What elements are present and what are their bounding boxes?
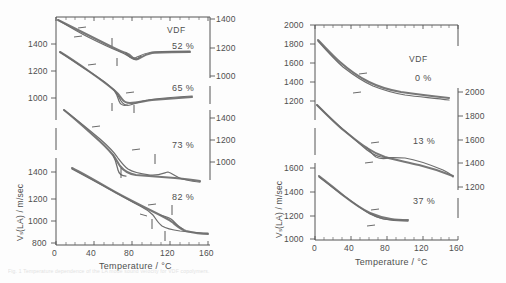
ytick-52-1400: 1400	[216, 15, 236, 24]
curve-group-vdf-65	[60, 52, 192, 105]
ytick-0pct-1600: 1600	[284, 59, 304, 68]
xtick-left-160: 160	[199, 249, 214, 258]
left-axis-65	[51, 17, 56, 120]
xtick-left-0: 0	[52, 249, 57, 258]
xtick-right-0: 0	[312, 244, 317, 253]
ytick-82-1400: 1400	[28, 168, 48, 177]
ytick-0pct-1400: 1400	[284, 78, 304, 87]
xtick-left-80: 80	[124, 249, 134, 258]
ytick-73-1400: 1400	[216, 114, 236, 123]
transition-marker-52	[112, 38, 117, 66]
xaxis-label-right: Temperature / °C	[355, 258, 428, 267]
figure-container: 1400 1200 1000 1400 1200 1000 800 1400 1…	[0, 0, 506, 283]
label-vdf-0: 0 %	[415, 74, 432, 83]
ytick-13pct-2000: 2000	[465, 88, 485, 97]
ytick-13pct-1800: 1800	[465, 112, 485, 121]
ytick-0pct-2000: 2000	[284, 21, 304, 30]
right-axis-13pct	[458, 88, 463, 190]
ytick-52-1000: 1000	[216, 72, 236, 81]
right-axis-73	[210, 110, 215, 180]
figure-caption: Fig. 1 Temperature dependence of the LA …	[8, 268, 498, 274]
xtick-right-80: 80	[380, 244, 390, 253]
legend-title-left: VDF	[167, 26, 186, 35]
label-vdf-52: 52 %	[172, 42, 194, 51]
ytick-37pct-1600: 1600	[284, 164, 304, 173]
label-vdf-82: 82 %	[172, 193, 194, 202]
xtick-right-160: 160	[449, 244, 464, 253]
ytick-52-1200: 1200	[216, 44, 236, 53]
left-bottom-axis	[56, 241, 210, 245]
legend-title-right: VDF	[409, 55, 428, 64]
ytick-13pct-1200: 1200	[465, 183, 485, 192]
label-vdf-65: 65 %	[172, 84, 194, 93]
xtick-right-40: 40	[344, 244, 354, 253]
ytick-65-1400: 1400	[28, 40, 48, 49]
ytick-82-1200: 1200	[28, 195, 48, 204]
yaxis-label-left: Vₛ(LA) / m/sec	[16, 184, 25, 241]
ytick-37pct-1400: 1400	[284, 188, 304, 197]
ytick-0pct-1800: 1800	[284, 40, 304, 49]
ytick-37pct-1200: 1200	[284, 212, 304, 221]
ytick-82-800: 800	[32, 239, 47, 248]
right-axis-0pct	[310, 25, 315, 120]
ytick-73-1000: 1000	[216, 158, 236, 167]
ytick-65-1200: 1200	[28, 67, 48, 76]
right-top-axis	[315, 25, 458, 29]
ytick-13pct-1600: 1600	[465, 136, 485, 145]
ytick-73-1200: 1200	[216, 136, 236, 145]
yaxis-label-right: Vₛ(LA) / m/sec	[275, 181, 284, 238]
right-axis-52	[210, 17, 215, 78]
xtick-left-120: 120	[160, 249, 175, 258]
right-axis-37pct	[310, 163, 315, 240]
right-bottom-axis	[315, 236, 458, 240]
ytick-82-1000: 1000	[28, 217, 48, 226]
ytick-13pct-1400: 1400	[465, 159, 485, 168]
ytick-37pct-1000: 1000	[284, 235, 304, 244]
transition-marker-82	[152, 205, 172, 241]
ytick-0pct-1200: 1200	[284, 97, 304, 106]
label-vdf-73: 73 %	[172, 141, 194, 150]
label-vdf-37: 37 %	[413, 197, 435, 206]
left-top-axis	[56, 17, 210, 21]
curve-group-vdf-0	[318, 40, 449, 100]
xtick-left-40: 40	[86, 249, 96, 258]
label-vdf-13: 13 %	[413, 137, 435, 146]
panel-left: 1400 1200 1000 1400 1200 1000 800 1400 1…	[0, 0, 253, 283]
left-axis-82	[51, 158, 56, 245]
panel-right: 2000 1800 1600 1400 1200 1600 1400 1200 …	[253, 0, 506, 283]
curve-group-vdf-37	[319, 176, 408, 221]
ytick-65-1000: 1000	[28, 94, 48, 103]
xtick-right-120: 120	[414, 244, 429, 253]
